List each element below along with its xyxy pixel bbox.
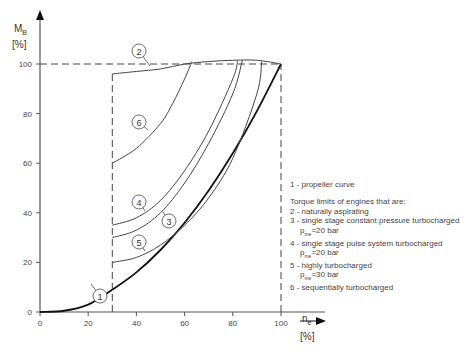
y-tick-label: 40 — [23, 209, 32, 218]
legend-item-3: 3 - single stage constant pressure turbo… — [290, 216, 459, 225]
x-tick-label: 60 — [180, 319, 189, 328]
x-tick-label: 0 — [38, 319, 43, 328]
legend-item-4-pressure: pme=20 bar — [290, 248, 459, 261]
legend-item-1: 1 - propeller curve — [290, 180, 459, 189]
legend-item-2: 2 - naturally aspirating — [290, 207, 459, 216]
y-axis-unit: [%] — [12, 39, 27, 50]
callout-number-6: 6 — [136, 118, 141, 128]
callout-number-5: 5 — [136, 238, 141, 248]
curve-1 — [40, 64, 281, 312]
y-tick-label: 20 — [23, 258, 32, 267]
curve-2 — [112, 60, 281, 74]
x-axis-unit: [%] — [300, 331, 315, 342]
x-axis-label: ne — [302, 313, 312, 326]
x-tick-label: 40 — [132, 319, 141, 328]
legend-item-5-pressure: pme=30 bar — [290, 270, 459, 283]
y-axis-arrow-icon — [36, 10, 44, 20]
callout-number-1: 1 — [97, 292, 102, 302]
chart-canvas: 020406080100020406080100MB[%]ne[%]123456 — [0, 0, 467, 355]
curve-4 — [112, 60, 237, 225]
legend-item-5: 5 - highly turbocharged — [290, 261, 459, 270]
y-axis-label: MB — [14, 23, 27, 36]
curve-5 — [112, 62, 261, 263]
legend: 1 - propeller curve Torque limits of eng… — [290, 180, 459, 293]
x-tick-label: 100 — [274, 319, 288, 328]
callout-number-2: 2 — [136, 47, 141, 57]
y-tick-label: 100 — [19, 60, 33, 69]
callout-number-4: 4 — [136, 198, 141, 208]
curve-6 — [112, 62, 192, 164]
legend-item-6: 6 - sequentially turbocharged — [290, 283, 459, 292]
y-tick-label: 80 — [23, 110, 32, 119]
legend-item-3-pressure: pme=20 bar — [290, 226, 459, 239]
y-tick-label: 60 — [23, 159, 32, 168]
x-axis-arrow-icon — [316, 317, 326, 325]
curve-3 — [112, 60, 242, 237]
legend-heading: Torque limits of engines that are: — [290, 197, 459, 206]
callout-number-3: 3 — [166, 217, 171, 227]
x-tick-label: 20 — [84, 319, 93, 328]
x-tick-label: 80 — [228, 319, 237, 328]
y-tick-label: 0 — [28, 308, 33, 317]
legend-item-4: 4 - single stage pulse system turbocharg… — [290, 239, 459, 248]
